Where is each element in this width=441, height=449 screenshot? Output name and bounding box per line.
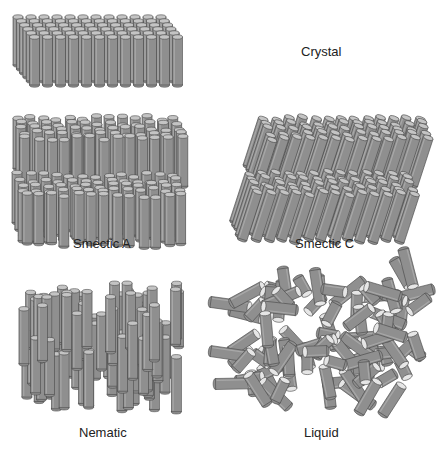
liquid-label: Liquid bbox=[304, 425, 339, 440]
liquid-rods bbox=[208, 246, 437, 420]
nematic-label: Nematic bbox=[79, 425, 127, 440]
nematic-rods bbox=[19, 281, 184, 414]
smectic-c-rods bbox=[229, 113, 434, 246]
smectic-a-label: Smectic A bbox=[73, 236, 131, 251]
crystal-rods bbox=[13, 15, 183, 87]
crystal-label: Crystal bbox=[301, 44, 341, 59]
liquid-crystal-phases-diagram bbox=[0, 0, 441, 449]
smectic-a-rods bbox=[12, 114, 188, 250]
smectic-c-label: Smectic C bbox=[295, 236, 354, 251]
